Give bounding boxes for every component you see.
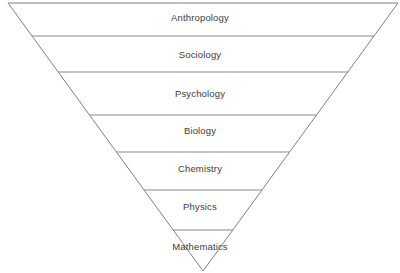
- pyramid-geometry: [8, 3, 398, 271]
- tier-label-chemistry: Chemistry: [0, 164, 400, 174]
- diagram-canvas: Anthropology Sociology Psychology Biolog…: [0, 0, 400, 273]
- tier-label-sociology: Sociology: [0, 50, 400, 60]
- tier-label-biology: Biology: [0, 126, 400, 136]
- tier-label-psychology: Psychology: [0, 89, 400, 99]
- inverted-pyramid-shape: [0, 0, 400, 273]
- tier-label-physics: Physics: [0, 202, 400, 212]
- tier-label-mathematics: Mathematics: [0, 242, 400, 252]
- tier-label-anthropology: Anthropology: [0, 13, 400, 23]
